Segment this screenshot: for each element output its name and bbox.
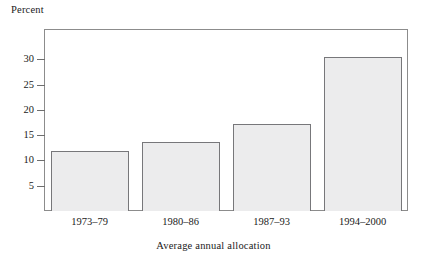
y-tick-label: 10	[24, 155, 35, 165]
y-tick-mark	[37, 186, 45, 187]
x-axis-title: Average annual allocation	[0, 240, 427, 251]
bar	[324, 57, 402, 211]
bar-chart-figure: Percent 51015202530 1973–791980–861987–9…	[0, 0, 427, 267]
y-tick-mark	[37, 59, 45, 60]
bar	[51, 151, 129, 211]
x-tick-label: 1980–86	[135, 216, 226, 228]
y-tick-mark	[37, 110, 45, 111]
y-tick-label: 5	[29, 181, 34, 191]
bar	[142, 142, 220, 211]
y-tick-label: 25	[24, 80, 35, 90]
y-tick-label: 30	[24, 54, 35, 64]
y-tick-mark	[37, 85, 45, 86]
y-tick-mark	[37, 135, 45, 136]
bar	[233, 124, 311, 211]
y-tick-label: 20	[24, 105, 35, 115]
y-tick-label: 15	[24, 130, 35, 140]
y-axis-title: Percent	[11, 4, 44, 15]
x-tick-label: 1973–79	[44, 216, 135, 228]
y-tick-mark	[37, 160, 45, 161]
x-tick-label: 1987–93	[226, 216, 317, 228]
x-tick-label: 1994–2000	[317, 216, 408, 228]
